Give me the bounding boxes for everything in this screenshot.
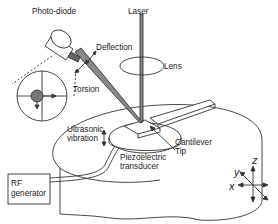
- rf-label-1: RF: [11, 179, 22, 188]
- piezo-label-1: Piezoelectric: [120, 153, 166, 162]
- torsion-arrow: [75, 62, 86, 73]
- rf-label-2: generator: [11, 189, 46, 198]
- x-axis-label: x: [228, 180, 235, 192]
- lens-label: Lens: [164, 62, 182, 71]
- piezo-label-2: transducer: [120, 162, 159, 171]
- z-axis-label: z: [251, 154, 258, 166]
- photodiode-icon: [45, 26, 80, 62]
- cantilever-label: Cantilever: [175, 138, 212, 147]
- photodiode-label: Photo-diode: [32, 7, 77, 16]
- ultrasonic-label-1: Ultrasonic: [67, 125, 103, 134]
- torsion-label: Torsion: [73, 85, 100, 94]
- tip-label: Tip: [175, 147, 187, 156]
- deflection-label: Deflection: [96, 43, 133, 52]
- afm-diagram: Photo-diode Laser Lens Deflection Torsio…: [0, 0, 278, 224]
- ultrasonic-label-2: vibration: [67, 134, 98, 143]
- laser-label: Laser: [128, 7, 149, 16]
- quadrant-detector: [17, 71, 67, 121]
- laser-beam: [140, 14, 143, 122]
